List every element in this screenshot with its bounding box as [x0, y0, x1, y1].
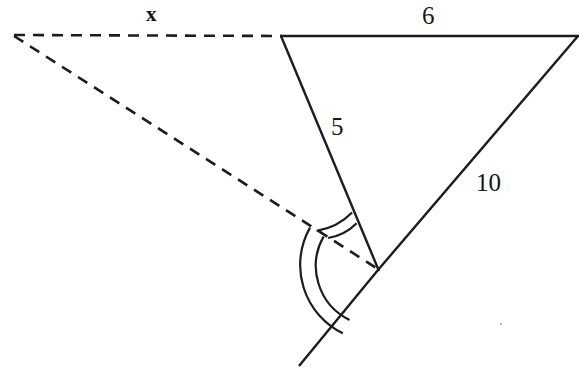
- dashed-diagonal-segment: [14, 36, 378, 269]
- lower-angle-mark: [300, 228, 349, 334]
- geometry-figure: ) x 6 5 10: [0, 0, 579, 378]
- solid-extension-ray: [299, 270, 378, 366]
- upper-angle-arc-outer: [317, 213, 353, 231]
- dashed-top-segment: [14, 35, 282, 36]
- side-label-5: 5: [331, 114, 344, 139]
- side-label-10: 10: [476, 170, 501, 195]
- side-label-x: x: [146, 4, 157, 25]
- solid-left-segment: [281, 36, 379, 271]
- scan-speck: [500, 323, 502, 325]
- lower-angle-arc-inner: [316, 237, 350, 320]
- solid-right-segment: [378, 36, 578, 270]
- side-label-6: 6: [422, 3, 435, 28]
